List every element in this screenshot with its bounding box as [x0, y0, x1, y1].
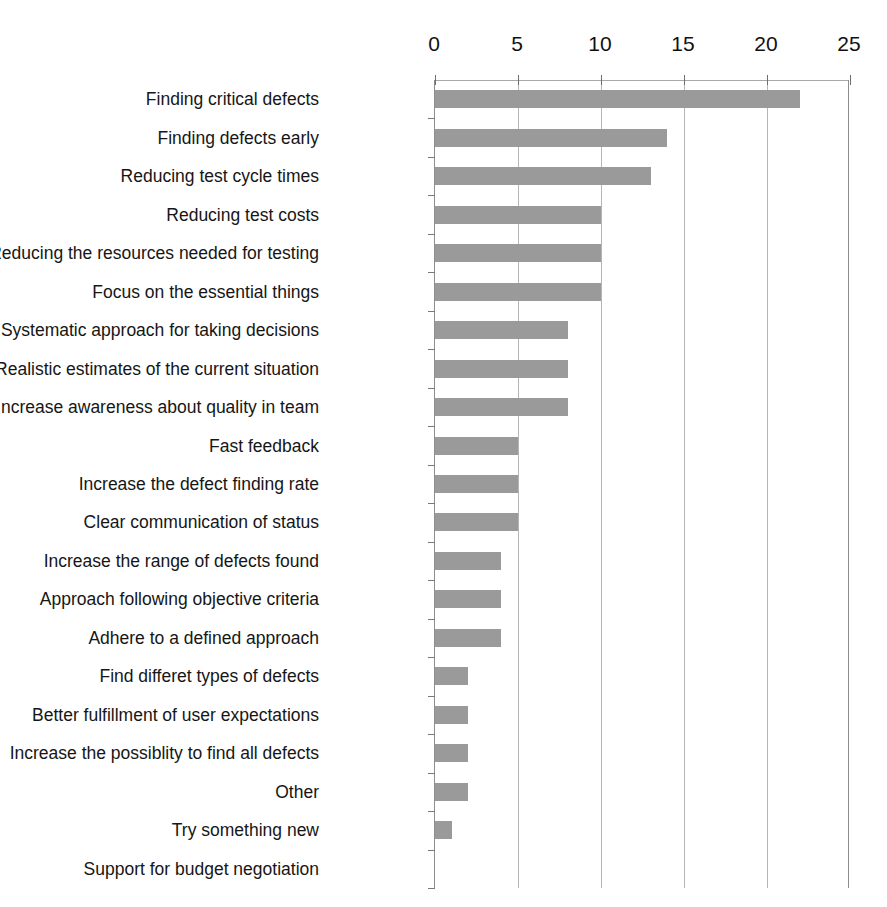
category-label: Systematic approach for taking decisions — [1, 320, 319, 341]
category-label: Reducing test cycle times — [121, 166, 319, 187]
bar — [435, 667, 468, 685]
bar — [435, 552, 501, 570]
category-label: Finding critical defects — [146, 89, 319, 110]
category-label: Focus on the essential things — [92, 281, 319, 302]
chart-row: Better fulfillment of user expectations — [0, 696, 887, 734]
chart-row: Adhere to a defined approach — [0, 619, 887, 657]
x-tick-label: 0 — [428, 32, 440, 56]
x-tick-label: 25 — [837, 32, 860, 56]
category-label: Finding defects early — [158, 127, 319, 148]
category-label: Realistic estimates of the current situa… — [0, 358, 319, 379]
chart-row: Increase the defect finding rate — [0, 465, 887, 503]
category-label: Fast feedback — [209, 435, 319, 456]
bar — [435, 129, 667, 147]
category-label: Find differet types of defects — [99, 666, 319, 687]
category-label: Increase the possiblity to find all defe… — [10, 743, 319, 764]
chart-row: Fast feedback — [0, 426, 887, 464]
chart-row: Finding critical defects — [0, 80, 887, 118]
bar — [435, 90, 800, 108]
bar — [435, 783, 468, 801]
bar — [435, 398, 568, 416]
bar — [435, 437, 518, 455]
bar — [435, 283, 601, 301]
x-tick-label: 5 — [511, 32, 523, 56]
category-label: Adhere to a defined approach — [88, 627, 319, 648]
chart-row: Reducing test cycle times — [0, 157, 887, 195]
bar — [435, 744, 468, 762]
y-tick-mark — [428, 888, 435, 889]
chart-row: Reducing test costs — [0, 195, 887, 233]
x-tick-label: 10 — [588, 32, 611, 56]
chart-row: Other — [0, 773, 887, 811]
chart-row: Increase awareness about quality in team — [0, 388, 887, 426]
chart-rows: Finding critical defectsFinding defects … — [0, 80, 887, 888]
bar — [435, 590, 501, 608]
x-tick-label: 15 — [671, 32, 694, 56]
category-label: Reducing test costs — [166, 204, 319, 225]
category-label: Try something new — [172, 820, 319, 841]
category-label: Better fulfillment of user expectations — [32, 704, 319, 725]
category-label: Support for budget negotiation — [84, 858, 319, 879]
chart-row: Finding defects early — [0, 118, 887, 156]
bar — [435, 821, 452, 839]
x-axis-tick-labels: 0510152025 — [0, 32, 887, 58]
category-label: Increase awareness about quality in team — [0, 397, 319, 418]
category-label: Approach following objective criteria — [40, 589, 319, 610]
chart-row: Clear communication of status — [0, 503, 887, 541]
chart-row: Realistic estimates of the current situa… — [0, 349, 887, 387]
chart-row: Reducing the resources needed for testin… — [0, 234, 887, 272]
chart-row: Find differet types of defects — [0, 657, 887, 695]
chart-row: Increase the possiblity to find all defe… — [0, 734, 887, 772]
chart-row: Increase the range of defects found — [0, 542, 887, 580]
bar — [435, 360, 568, 378]
bar — [435, 244, 601, 262]
bar — [435, 321, 568, 339]
category-label: Other — [275, 781, 319, 802]
bar — [435, 206, 601, 224]
bar — [435, 475, 518, 493]
category-label: Increase the defect finding rate — [79, 473, 319, 494]
category-label: Increase the range of defects found — [44, 550, 319, 571]
bar — [435, 706, 468, 724]
bar — [435, 513, 518, 531]
chart-row: Support for budget negotiation — [0, 850, 887, 888]
category-label: Clear communication of status — [84, 512, 319, 533]
bar — [435, 167, 651, 185]
x-tick-label: 20 — [754, 32, 777, 56]
bar — [435, 629, 501, 647]
chart-row: Systematic approach for taking decisions — [0, 311, 887, 349]
chart-row: Try something new — [0, 811, 887, 849]
horizontal-bar-chart: 0510152025 Finding critical defectsFindi… — [0, 0, 887, 907]
category-label: Reducing the resources needed for testin… — [0, 243, 319, 264]
chart-row: Focus on the essential things — [0, 272, 887, 310]
chart-row: Approach following objective criteria — [0, 580, 887, 618]
